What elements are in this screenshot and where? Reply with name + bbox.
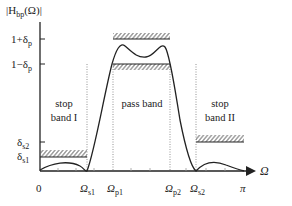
stopband1-label-line2: band I [51, 112, 78, 123]
xtick-zero: 0 [36, 182, 42, 194]
ytick-ds2: δs2 [17, 136, 29, 151]
xtick-ws2: Ωs2 [190, 182, 205, 197]
passband-lower-hatch [113, 64, 170, 70]
stopband2-hatch [196, 135, 244, 142]
stopband2-label-line2: band II [205, 112, 236, 123]
stopband2-label-line1: stop [211, 98, 229, 109]
stopband1-label-line1: stop [55, 98, 73, 109]
passband-upper-hatch [113, 33, 170, 39]
x-axis-title: Ω [260, 164, 269, 178]
ytick-1-minus-dp: 1−δp [11, 58, 32, 73]
xtick-wp1: Ωp1 [107, 182, 123, 197]
ytick-1-plus-dp: 1+δp [11, 33, 32, 48]
xtick-wp2: Ωp2 [165, 182, 181, 197]
ytick-ds1: δs1 [17, 150, 29, 165]
stopband1-hatch [40, 150, 87, 157]
xtick-ws1: Ωs1 [80, 182, 95, 197]
xtick-pi: π [240, 182, 246, 194]
passband-label: pass band [121, 98, 163, 109]
bandpass-filter-diagram: |Hbp(Ω)| 1+δp 1−δp δs2 δs1 0 Ωs1 Ωp1 Ωp2… [0, 0, 292, 206]
x-axis-arrow-icon [246, 166, 256, 176]
y-axis-title: |Hbp(Ω)| [6, 4, 42, 19]
